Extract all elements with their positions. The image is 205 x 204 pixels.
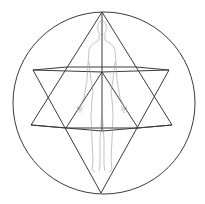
up-triangle-left-edge (33, 70, 101, 193)
upper-horizontal-edge (33, 70, 169, 72)
upper-horizontal-back-edge (33, 67, 169, 70)
inner-edge-right (102, 72, 138, 128)
inner-edge-left (66, 72, 102, 128)
up-triangle-right-edge (101, 70, 169, 193)
diagram-canvas: Star tetrahedron with human figure in ci… (0, 0, 205, 204)
star-tetrahedron-diagram (0, 0, 205, 204)
